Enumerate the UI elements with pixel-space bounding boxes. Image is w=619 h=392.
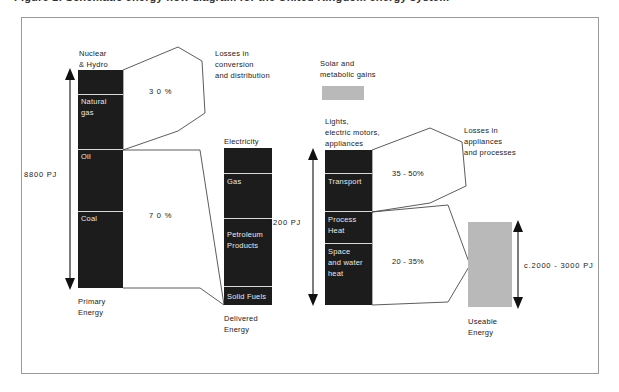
label-oil: Oil [81,151,91,162]
label-process-heat: Process Heat [328,214,357,236]
label-gas: Gas [227,176,241,187]
loss-funnel-conversion [123,47,205,150]
useable-energy-measure-arrow [513,220,523,309]
label-space-water-heat: Space and water heat [328,246,363,279]
flow-primary-to-delivered [123,150,224,305]
label-primary-stage: Primary Energy [78,296,106,318]
delivered-energy-measure-arrow [308,148,318,306]
label-pct-20-35: 20 - 35% [392,256,424,267]
bar-block-lights-motors [325,150,372,173]
label-lights-motors: Lights, electric motors, appliances [325,116,380,149]
label-losses-appliances: Losses in appliances and processes [464,125,516,158]
label-useable-stage: Useable Energy [468,316,497,338]
flow-primary-to-delivered-lower [200,288,224,305]
label-solid-fuels: Solid Fuels [227,291,266,302]
label-petroleum-products: Petroleum Products [227,229,263,251]
label-pct-70: 7 0 % [149,210,172,221]
label-pct-35-50: 35 - 50% [392,168,424,179]
primary-energy-measure-arrow [65,68,75,290]
label-pct-30: 3 0 % [149,86,172,97]
label-delivered-stage: Delivered Energy [224,313,258,335]
loss-funnel-appliances-lower [372,205,470,305]
label-natural-gas: Natural gas [81,96,107,118]
label-coal: Coal [81,213,97,224]
label-transport: Transport [328,176,362,187]
label-solar-metabolic-gains: Solar and metabolic gains [320,58,376,80]
useable-energy-box [468,222,512,307]
energy-flow-diagram-page: Figure 1: Schematic energy flow diagram … [0,0,619,392]
solar-metabolic-gains-swatch [322,86,364,100]
label-electricity: Electricity [224,136,259,147]
label-primary-axis-value: 8800 PJ [24,169,57,180]
label-nuclear-hydro: Nuclear & Hydro [79,48,108,70]
bar-block-electricity [224,148,272,173]
bar-block-nuclear-hydro [78,70,123,94]
label-useable-axis-value: c.2000 - 3000 PJ [524,260,594,271]
label-losses-conversion: Losses in conversion and distribution [215,48,270,81]
label-delivered-axis-value: 6200 PJ [268,217,301,228]
